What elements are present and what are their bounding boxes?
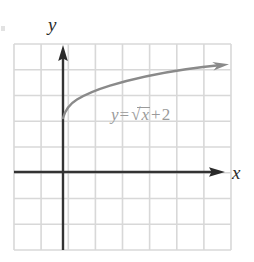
square-root-expression: √x	[130, 106, 150, 125]
coordinate-plane	[0, 0, 254, 262]
grid-lines	[14, 44, 231, 250]
equation-annotation: y=√x+2	[111, 106, 201, 125]
equation-constant: 2	[162, 105, 171, 124]
equation-plus-sign: +	[150, 105, 162, 124]
x-axis-label: x	[232, 163, 240, 182]
radicand: x	[140, 106, 150, 125]
vinculum-bar	[137, 107, 150, 108]
equation-equals-sign: =	[119, 105, 131, 124]
graph-figure: y x y=√x+2	[0, 0, 254, 262]
y-axis-label: y	[48, 15, 56, 34]
equation-lhs: y	[111, 105, 119, 124]
x-axis	[14, 167, 225, 177]
